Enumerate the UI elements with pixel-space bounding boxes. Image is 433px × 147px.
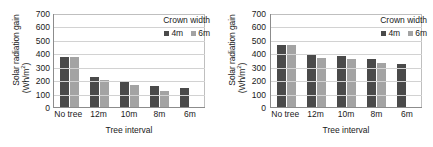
legend-right: Crown width 4m6m	[335, 15, 427, 38]
x-tick-label: 12m	[300, 109, 330, 119]
x-tick-label: No tree	[270, 109, 300, 119]
x-axis-ticks-left: No tree12m10m8m6m	[53, 109, 205, 119]
chart-panel-left: Solar radiation gain (Wh/m2) 01002003004…	[0, 0, 216, 147]
legend-items-right: 4m6m	[335, 28, 427, 38]
x-tick-label: 8m	[361, 109, 391, 119]
x-tick-label: 6m	[175, 109, 205, 119]
gridline	[271, 95, 422, 96]
y-tick-label: 300	[36, 63, 50, 73]
x-tick-label: 10m	[331, 109, 361, 119]
legend-swatch-icon	[408, 31, 413, 36]
bar	[377, 63, 386, 107]
x-tick-label: No tree	[53, 109, 83, 119]
legend-swatch-icon	[381, 31, 386, 36]
y-tick-label: 400	[252, 49, 266, 59]
bar	[347, 59, 356, 107]
gridline	[271, 54, 422, 55]
y-tick-label: 100	[36, 90, 50, 100]
bar	[180, 88, 189, 107]
legend-label: 4m	[388, 28, 400, 38]
x-tick-label: 6m	[392, 109, 422, 119]
bar	[317, 58, 326, 107]
y-tick-label: 0	[261, 103, 266, 113]
gridline	[271, 81, 422, 82]
y-tick-label: 100	[252, 90, 266, 100]
y-tick-label: 700	[252, 9, 266, 19]
y-axis-ticks-right: 0100200300400500600700	[240, 14, 266, 108]
legend-title-left: Crown width	[118, 15, 210, 25]
gridline	[54, 41, 205, 42]
legend-item: 6m	[191, 28, 210, 38]
gridline	[271, 41, 422, 42]
gridline	[271, 68, 422, 69]
x-axis-title-right: Tree interval	[270, 125, 422, 135]
y-tick-label: 500	[36, 36, 50, 46]
gridline	[54, 95, 205, 96]
chart-panel-right: Solar radiation gain (Wh/m2) 01002003004…	[216, 0, 433, 147]
y-tick-label: 0	[45, 103, 50, 113]
y-tick-label: 600	[252, 22, 266, 32]
legend-title-right: Crown width	[335, 15, 427, 25]
legend-item: 4m	[164, 28, 183, 38]
x-tick-label: 8m	[144, 109, 174, 119]
y-tick-label: 200	[252, 76, 266, 86]
legend-left: Crown width 4m6m	[118, 15, 210, 38]
legend-item: 4m	[381, 28, 400, 38]
gridline	[54, 81, 205, 82]
legend-swatch-icon	[191, 31, 196, 36]
y-axis-ticks-left: 0100200300400500600700	[24, 14, 50, 108]
figure: Solar radiation gain (Wh/m2) 01002003004…	[0, 0, 433, 147]
y-tick-label: 600	[36, 22, 50, 32]
x-axis-title-left: Tree interval	[53, 125, 205, 135]
bar	[130, 85, 139, 107]
legend-label: 6m	[198, 28, 210, 38]
bar	[397, 64, 406, 107]
y-tick-label: 300	[252, 63, 266, 73]
x-tick-label: 10m	[114, 109, 144, 119]
y-tick-label: 400	[36, 49, 50, 59]
legend-label: 6m	[415, 28, 427, 38]
x-axis-ticks-right: No tree12m10m8m6m	[270, 109, 422, 119]
legend-label: 4m	[171, 28, 183, 38]
bar	[367, 59, 376, 107]
bar	[150, 86, 159, 107]
bar	[160, 91, 169, 107]
legend-swatch-icon	[164, 31, 169, 36]
y-tick-label: 500	[252, 36, 266, 46]
legend-items-left: 4m6m	[118, 28, 210, 38]
y-tick-label: 700	[36, 9, 50, 19]
legend-item: 6m	[408, 28, 427, 38]
gridline	[54, 54, 205, 55]
x-tick-label: 12m	[83, 109, 113, 119]
y-tick-label: 200	[36, 76, 50, 86]
gridline	[54, 68, 205, 69]
